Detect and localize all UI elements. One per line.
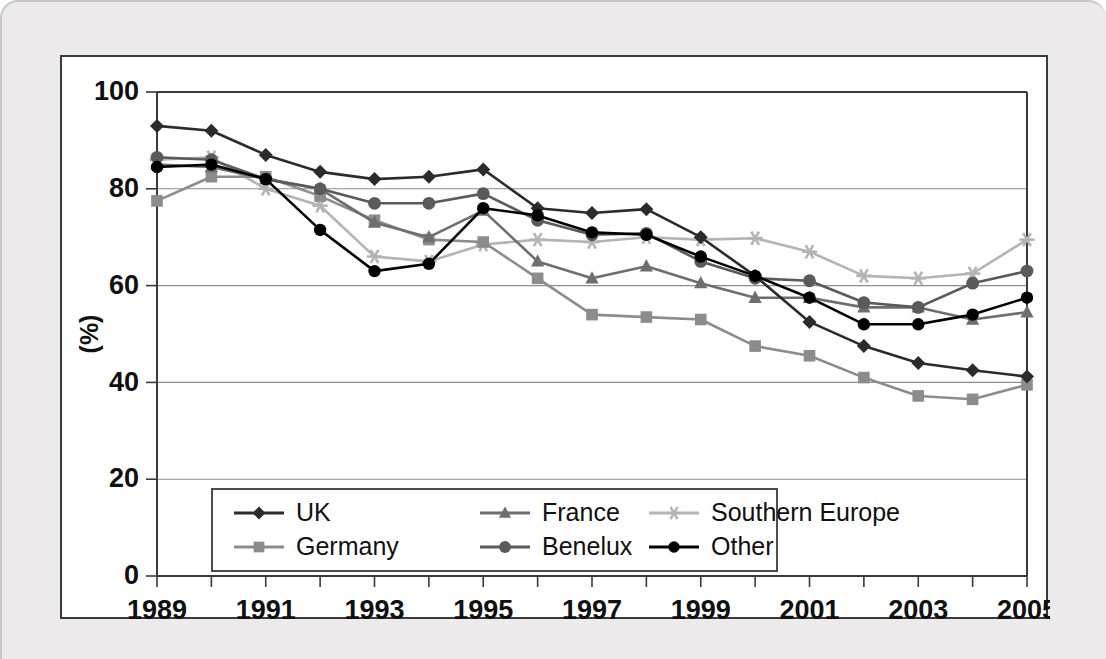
data-point-marker (1021, 292, 1033, 304)
data-point-marker (259, 148, 273, 162)
data-point-marker (368, 197, 381, 210)
data-point-marker (966, 363, 980, 377)
legend-label: Germany (296, 532, 399, 560)
x-axis-tick-label: 1999 (671, 595, 731, 621)
data-point-marker (531, 209, 543, 221)
data-point-marker (1020, 305, 1033, 317)
data-point-marker (911, 356, 925, 370)
data-point-marker (857, 339, 871, 353)
data-point-marker (802, 245, 817, 258)
legend-label: France (542, 498, 620, 526)
data-point-marker (912, 318, 924, 330)
data-point-marker (858, 318, 870, 330)
x-axis-tick-label: 1993 (344, 595, 404, 621)
data-point-marker (695, 250, 707, 262)
data-point-marker (912, 390, 924, 402)
legend-label: UK (296, 498, 331, 526)
legend-label: Southern Europe (711, 498, 900, 526)
data-point-marker (856, 269, 871, 282)
x-axis-tick-label: 1997 (562, 595, 622, 621)
data-point-marker (857, 296, 870, 309)
data-point-marker (532, 273, 544, 285)
y-axis-tick-label: 80 (109, 173, 139, 203)
series-uk (150, 119, 1034, 384)
data-point-marker (641, 311, 653, 323)
data-point-marker (858, 372, 870, 384)
data-point-marker (967, 394, 979, 406)
data-point-marker (749, 270, 761, 282)
y-axis-tick-label: 20 (109, 463, 139, 493)
data-point-marker (150, 119, 164, 133)
data-point-marker (477, 202, 489, 214)
data-point-marker (368, 172, 382, 186)
x-axis-tick-label: 1991 (236, 595, 296, 621)
legend-label: Other (711, 532, 774, 560)
data-point-marker (803, 274, 816, 287)
data-point-marker (368, 265, 380, 277)
y-axis-tick-label: 40 (109, 367, 139, 397)
x-axis-tick-label: 1989 (127, 595, 187, 621)
data-point-marker (260, 173, 272, 185)
data-point-marker (313, 165, 327, 179)
data-point-marker (205, 158, 217, 170)
data-point-marker (966, 277, 979, 290)
data-point-marker (966, 308, 978, 320)
data-point-marker (254, 542, 265, 553)
data-point-marker (668, 541, 679, 552)
x-axis-tick-label: 2001 (779, 595, 839, 621)
chart-panel: 020406080100(%)1989199119931995199719992… (60, 55, 1048, 619)
data-point-marker (803, 292, 815, 304)
data-point-marker (804, 350, 816, 362)
data-point-marker (314, 224, 326, 236)
data-point-marker (151, 195, 163, 207)
data-point-marker (640, 229, 652, 241)
series-line (157, 126, 1027, 377)
data-point-marker (586, 309, 598, 321)
data-point-marker (585, 206, 599, 220)
y-axis-tick-label: 60 (109, 270, 139, 300)
x-axis-tick-label: 2003 (888, 595, 948, 621)
data-point-marker (749, 340, 761, 352)
data-point-marker (695, 314, 707, 326)
data-point-marker (151, 161, 163, 173)
y-axis-tick-label: 100 (94, 76, 139, 106)
x-axis-tick-label: 1995 (453, 595, 513, 621)
data-point-marker (911, 272, 926, 285)
data-point-marker (640, 259, 653, 271)
data-point-marker (530, 233, 545, 246)
chart-canvas: 020406080100(%)1989199119931995199719992… (62, 57, 1050, 621)
data-point-marker (499, 541, 511, 553)
line-chart: 020406080100(%)1989199119931995199719992… (62, 57, 1050, 621)
data-point-marker (314, 182, 327, 195)
y-axis-title: (%) (75, 315, 103, 354)
window-frame: 020406080100(%)1989199119931995199719992… (0, 0, 1106, 659)
data-point-marker (423, 258, 435, 270)
data-point-marker (477, 187, 490, 200)
y-axis-tick-label: 0 (124, 560, 139, 590)
data-point-marker (912, 301, 925, 314)
data-point-marker (748, 232, 763, 245)
data-point-marker (1021, 265, 1034, 278)
data-point-marker (206, 171, 218, 183)
x-axis-tick-label: 2005 (997, 595, 1050, 621)
data-point-marker (422, 197, 435, 210)
data-point-marker (639, 202, 653, 216)
data-point-marker (586, 226, 598, 238)
data-point-marker (422, 170, 436, 184)
data-point-marker (477, 236, 489, 248)
data-point-marker (204, 124, 218, 138)
legend-label: Benelux (542, 532, 633, 560)
